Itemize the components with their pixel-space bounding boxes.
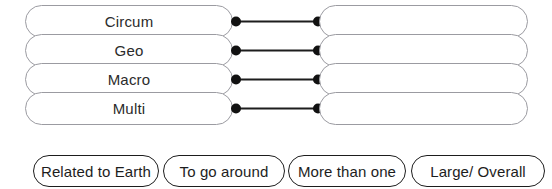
term-label: Multi (113, 101, 146, 116)
match-row: Multi (0, 92, 552, 125)
answer-bank-label: More than one (298, 164, 396, 179)
connector-dot-left (231, 75, 241, 85)
answer-bank-option-2[interactable]: To go around (163, 155, 285, 187)
answer-bank: Related to Earth To go around More than … (0, 155, 552, 189)
answer-bank-option-4[interactable]: Large/ Overall (411, 155, 545, 187)
connector-line-3 (230, 73, 324, 86)
answer-bank-option-1[interactable]: Related to Earth (33, 155, 159, 187)
answer-bank-label: Related to Earth (41, 164, 151, 179)
connector-dot-left (231, 17, 241, 27)
term-pill-4[interactable]: Multi (25, 92, 233, 125)
connector-line-1 (230, 15, 324, 28)
answer-pill-4[interactable] (319, 92, 528, 125)
answer-bank-option-3[interactable]: More than one (288, 155, 406, 187)
connector-line-4 (230, 102, 324, 115)
term-label: Geo (115, 43, 144, 58)
matching-worksheet: Circum Geo Macro (0, 0, 552, 189)
connector-dot-left (231, 104, 241, 114)
connector-dot-left (231, 46, 241, 56)
term-label: Macro (108, 72, 151, 87)
answer-bank-label: Large/ Overall (430, 164, 526, 179)
term-label: Circum (105, 14, 154, 29)
answer-bank-label: To go around (180, 164, 269, 179)
connector-line-2 (230, 44, 324, 57)
